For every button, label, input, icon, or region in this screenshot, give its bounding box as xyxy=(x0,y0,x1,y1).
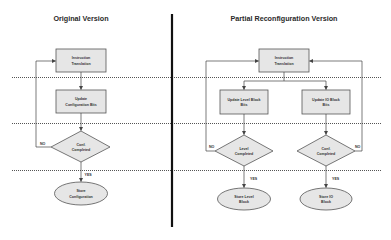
diamond-label-line1: Conf. xyxy=(321,147,330,151)
right-flowchart: Instruction Translation Update Level Blo… xyxy=(206,49,362,210)
right-panel-title: Partial Reconfiguration Version xyxy=(230,14,337,23)
diamond-label-line1: Conf. xyxy=(76,143,85,147)
left-no-label: NO xyxy=(40,142,46,146)
diamond-label-line1: Level xyxy=(239,147,248,151)
box-label-line2: Bits xyxy=(323,103,330,107)
right-conf-completed-diamond: Conf. Completed xyxy=(297,135,355,166)
right-instruction-translation-box: Instruction Translation xyxy=(259,49,309,72)
left-conf-completed-diamond: Conf. Completed xyxy=(51,131,110,162)
box-label-line2: Translation xyxy=(274,62,293,66)
box-label-line1: Update Level Block xyxy=(227,98,260,102)
ellipse-label-line1: Store IO xyxy=(319,195,333,199)
left-flowchart: Instruction Translation Update Configura… xyxy=(36,49,110,205)
box-label-line1: Update IO Block xyxy=(312,98,340,102)
left-panel-title: Original Version xyxy=(53,14,108,23)
right-store-io-block-ellipse: Store IO Block xyxy=(300,188,352,210)
right-level-completed-diamond: Level Completed xyxy=(215,135,273,166)
ellipse-label-line2: Block xyxy=(239,200,249,204)
left-store-configuration-ellipse: Store Configuration xyxy=(55,182,108,205)
left-yes-label: YES xyxy=(85,173,93,177)
right-yes-label-left: YES xyxy=(250,177,258,181)
box-label-line1: Instruction xyxy=(72,56,91,60)
box-label-line1: Update xyxy=(75,97,87,101)
right-store-level-block-ellipse: Store Level Block xyxy=(218,188,271,210)
diamond-label-line2: Completed xyxy=(72,148,91,152)
left-no-loop-arrow xyxy=(36,61,56,147)
ellipse-label-line1: Store xyxy=(76,189,85,193)
right-update-level-block-box: Update Level Block Bits xyxy=(220,90,268,114)
left-instruction-translation-box: Instruction Translation xyxy=(56,49,106,72)
right-no-label-left: NO xyxy=(209,145,215,149)
flowchart-canvas: Original Version Partial Reconfiguration… xyxy=(0,0,391,240)
box-label-line1: Instruction xyxy=(275,56,294,60)
box-label-line2: Translation xyxy=(71,62,90,66)
right-no-label-right: NO xyxy=(355,145,361,149)
ellipse-label-line2: Block xyxy=(321,200,331,204)
ellipse-label-line1: Store Level xyxy=(234,195,253,199)
left-update-configuration-box: Update Configuration Bits xyxy=(56,90,106,113)
ellipse-label-line2: Configuration xyxy=(69,195,93,199)
diamond-label-line2: Completed xyxy=(317,152,336,156)
box-label-line2: Configuration Bits xyxy=(65,103,96,107)
right-update-io-block-box: Update IO Block Bits xyxy=(302,90,350,114)
diamond-label-line2: Completed xyxy=(235,152,254,156)
box-label-line2: Bits xyxy=(241,103,248,107)
right-yes-label-right: YES xyxy=(332,177,340,181)
